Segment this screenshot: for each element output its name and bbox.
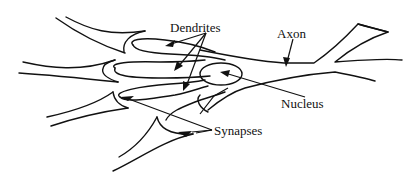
axon-terminal xyxy=(358,24,388,32)
axon-label: Axon xyxy=(277,27,306,40)
dendrite-bottom xyxy=(113,117,193,171)
dendrite-top xyxy=(56,17,145,53)
nucleus-label: Nucleus xyxy=(281,97,324,110)
arrowhead xyxy=(220,70,230,77)
dendrites-label: Dendrites xyxy=(170,21,221,34)
synapse-marks xyxy=(120,96,192,137)
nucleus-shape xyxy=(200,63,242,85)
arrowhead xyxy=(283,57,290,67)
dendrite-lower-left xyxy=(47,92,128,126)
synapses-label: Synapses xyxy=(214,124,262,137)
neuron-diagram: Dendrites Axon Nucleus Synapses xyxy=(0,0,417,178)
dendrite-middle xyxy=(19,60,118,82)
